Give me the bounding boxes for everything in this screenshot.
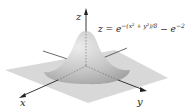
- z-axis-label: z: [76, 11, 81, 22]
- x-axis-label: x: [20, 97, 26, 108]
- y-arrow-icon: [140, 87, 147, 92]
- surface-equation: z = e−(x² + y²)/8 − e−2: [98, 22, 185, 34]
- y-axis-label: y: [137, 96, 143, 107]
- surface-plot: [0, 0, 191, 111]
- z-arrow-icon: [84, 8, 88, 15]
